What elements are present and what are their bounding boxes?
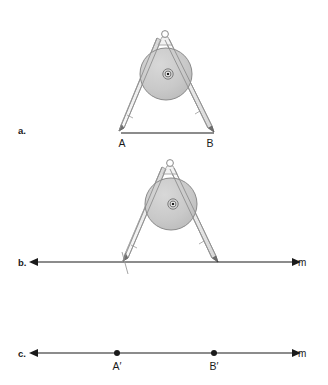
compass-disc [140, 48, 192, 100]
compass-b [123, 160, 218, 262]
panel-b-label: b. [18, 257, 26, 268]
point-b-prime-dot [211, 350, 217, 356]
compass-pivot-ring [167, 160, 174, 167]
line-m-b: m [38, 252, 306, 274]
panel-c-label: c. [18, 348, 26, 359]
compass-hub-center-dot [167, 73, 170, 76]
point-b-prime-label: B′ [210, 360, 219, 372]
panel-b: b. [18, 160, 306, 274]
line-m-c: m [38, 348, 306, 359]
point-a-label: A [118, 137, 125, 149]
compass-pivot-ring [162, 31, 169, 38]
panel-a: a. [18, 31, 214, 149]
panel-a-label: a. [18, 125, 26, 136]
compass-hub-center-dot [172, 203, 175, 206]
point-a-prime-label: A′ [113, 360, 122, 372]
compass-a [119, 31, 214, 132]
figure-root: a. [0, 0, 328, 385]
point-a-prime-dot [114, 350, 120, 356]
compass-needle-collar [199, 241, 204, 244]
line-m-c-label: m [298, 348, 306, 359]
geometry-figure: a. [0, 0, 328, 385]
point-b-label: B [206, 137, 213, 149]
line-m-b-label: m [298, 257, 306, 268]
segment-ab: A B [118, 133, 214, 149]
panel-c: c. m A′ B′ [18, 348, 306, 372]
compass-needle-collar [195, 111, 200, 114]
compass-disc [145, 178, 197, 230]
